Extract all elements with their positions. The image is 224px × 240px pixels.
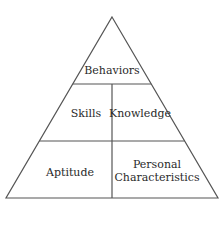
- label-skills: Skills: [71, 107, 101, 120]
- label-knowledge: Knowledge: [109, 107, 171, 120]
- label-personal-line2: Characteristics: [114, 171, 199, 184]
- label-personal-characteristics: Personal Characteristics: [114, 158, 199, 184]
- label-behaviors: Behaviors: [84, 64, 140, 77]
- label-aptitude: Aptitude: [46, 166, 94, 179]
- label-personal-line1: Personal: [114, 158, 199, 171]
